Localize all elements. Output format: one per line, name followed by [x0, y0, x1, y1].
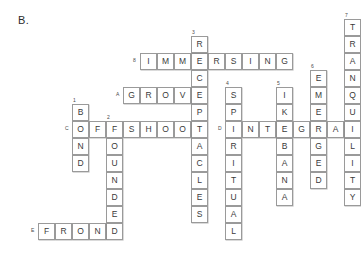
grid-cell[interactable]: R — [208, 53, 225, 70]
clue-number-immersing: 8 — [133, 58, 136, 63]
cell-letter: E — [192, 190, 207, 205]
grid-cell[interactable]: M — [310, 87, 327, 104]
cell-letter: T — [345, 20, 360, 35]
grid-cell[interactable]: T — [225, 172, 242, 189]
grid-cell[interactable]: I — [225, 121, 242, 138]
grid-cell[interactable]: O — [72, 223, 89, 240]
grid-cell[interactable]: A — [225, 206, 242, 223]
grid-cell[interactable]: U — [225, 189, 242, 206]
grid-cell[interactable]: P — [191, 104, 208, 121]
grid-cell[interactable]: N — [242, 121, 259, 138]
grid-cell[interactable]: T — [191, 121, 208, 138]
grid-cell[interactable]: Q — [344, 87, 361, 104]
cell-letter: T — [260, 122, 275, 137]
grid-cell[interactable]: D — [106, 223, 123, 240]
grid-cell[interactable]: N — [72, 138, 89, 155]
grid-cell[interactable]: A — [191, 138, 208, 155]
grid-cell[interactable]: K — [276, 104, 293, 121]
grid-cell[interactable]: I — [140, 53, 157, 70]
grid-cell[interactable]: G — [310, 138, 327, 155]
grid-cell[interactable]: E — [310, 70, 327, 87]
grid-cell[interactable]: R — [55, 223, 72, 240]
cell-letter: N — [260, 54, 275, 69]
grid-cell[interactable]: R — [140, 87, 157, 104]
cell-letter: M — [175, 54, 190, 69]
grid-cell[interactable]: E — [310, 104, 327, 121]
grid-cell[interactable]: F — [106, 121, 123, 138]
grid-cell[interactable]: R — [344, 36, 361, 53]
grid-cell[interactable]: Y — [344, 189, 361, 206]
grid-cell[interactable]: V — [174, 87, 191, 104]
grid-cell[interactable]: E — [191, 189, 208, 206]
grid-cell[interactable]: I — [225, 155, 242, 172]
grid-cell[interactable]: S — [225, 53, 242, 70]
cell-letter: R — [141, 88, 156, 103]
cell-letter: C — [192, 156, 207, 171]
grid-cell[interactable]: S — [123, 121, 140, 138]
grid-cell[interactable]: U — [344, 104, 361, 121]
grid-cell[interactable]: G — [293, 121, 310, 138]
grid-cell[interactable]: B — [276, 138, 293, 155]
grid-cell[interactable]: N — [276, 172, 293, 189]
cell-letter: A — [226, 207, 241, 222]
grid-cell[interactable]: C — [191, 155, 208, 172]
grid-cell[interactable]: N — [106, 172, 123, 189]
grid-cell[interactable]: P — [225, 104, 242, 121]
grid-cell[interactable]: R — [225, 138, 242, 155]
grid-cell[interactable]: G — [276, 53, 293, 70]
grid-cell[interactable]: N — [89, 223, 106, 240]
grid-cell[interactable]: C — [191, 70, 208, 87]
clue-number-bond: 1 — [73, 98, 76, 103]
grid-cell[interactable]: T — [344, 172, 361, 189]
grid-cell[interactable]: F — [89, 121, 106, 138]
cell-letter: P — [192, 105, 207, 120]
grid-cell[interactable]: U — [106, 155, 123, 172]
grid-cell[interactable]: E — [276, 121, 293, 138]
grid-cell[interactable]: L — [191, 172, 208, 189]
grid-cell[interactable]: A — [344, 53, 361, 70]
grid-cell[interactable]: D — [310, 172, 327, 189]
grid-cell[interactable]: D — [106, 189, 123, 206]
grid-cell[interactable]: N — [259, 53, 276, 70]
grid-cell[interactable]: S — [191, 206, 208, 223]
grid-cell[interactable]: H — [140, 121, 157, 138]
grid-cell[interactable]: O — [106, 138, 123, 155]
grid-cell[interactable]: M — [157, 53, 174, 70]
cell-letter: N — [243, 122, 258, 137]
grid-cell[interactable]: I — [242, 53, 259, 70]
cell-letter: O — [73, 122, 88, 137]
grid-cell[interactable]: F — [38, 223, 55, 240]
grid-cell[interactable]: A — [327, 121, 344, 138]
clue-number-emerged: 6 — [311, 64, 314, 69]
grid-cell[interactable]: E — [310, 155, 327, 172]
grid-cell[interactable]: L — [225, 223, 242, 240]
cell-letter: D — [107, 190, 122, 205]
cell-letter: S — [124, 122, 139, 137]
grid-cell[interactable]: B — [72, 104, 89, 121]
grid-cell[interactable]: A — [276, 189, 293, 206]
grid-cell[interactable]: E — [191, 87, 208, 104]
grid-cell[interactable]: A — [276, 155, 293, 172]
grid-cell[interactable]: M — [174, 53, 191, 70]
grid-cell[interactable]: E — [106, 206, 123, 223]
grid-cell[interactable]: T — [344, 19, 361, 36]
cell-letter: M — [311, 88, 326, 103]
grid-cell[interactable]: R — [191, 36, 208, 53]
grid-cell[interactable]: G — [123, 87, 140, 104]
grid-cell[interactable]: I — [276, 87, 293, 104]
grid-cell[interactable]: O — [174, 121, 191, 138]
clue-number-offshoot: C — [65, 126, 69, 131]
grid-cell[interactable]: N — [344, 70, 361, 87]
grid-cell[interactable]: S — [225, 87, 242, 104]
grid-cell[interactable]: O — [157, 87, 174, 104]
grid-cell[interactable]: R — [310, 121, 327, 138]
grid-cell[interactable]: L — [344, 138, 361, 155]
grid-cell[interactable]: I — [344, 155, 361, 172]
grid-cell[interactable]: D — [72, 155, 89, 172]
grid-cell[interactable]: O — [72, 121, 89, 138]
grid-cell[interactable]: O — [157, 121, 174, 138]
grid-cell[interactable]: T — [259, 121, 276, 138]
grid-cell[interactable]: E — [191, 53, 208, 70]
grid-cell[interactable]: I — [344, 121, 361, 138]
